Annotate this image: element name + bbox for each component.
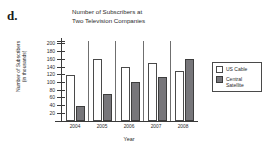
y-axis-tick-label-text: 100 [41, 80, 55, 85]
chart-title-line-2: Two Television Companies [72, 17, 202, 26]
bar-us-cable-2008 [175, 71, 184, 121]
filled-square-icon [216, 76, 223, 83]
y-axis-tick-label-text: 60 [41, 95, 55, 100]
y-axis-title: Number of Subscribers (in thousands) [15, 28, 28, 104]
y-axis-tick-label: 100 [41, 80, 55, 85]
bar-central-satellite-2005 [103, 94, 112, 121]
y-axis-tick-label: 80 [41, 88, 55, 93]
group-separator [143, 41, 144, 121]
open-square-icon [216, 66, 223, 73]
x-axis-tick-label: 2005 [91, 124, 113, 129]
y-axis-tick-label: 120 [41, 72, 55, 77]
bar-central-satellite-2006 [131, 82, 140, 121]
bar-us-cable-2005 [93, 59, 102, 121]
y-axis-tick-label: 160 [41, 57, 55, 62]
x-axis-title: Year [61, 136, 197, 142]
x-axis-tick-label: 2006 [118, 124, 140, 129]
y-axis-tick-label-text: 40 [41, 103, 55, 108]
bar-us-cable-2004 [66, 75, 75, 121]
y-axis-tick-label-text: 180 [41, 49, 55, 54]
y-axis-tick-label: 140 [41, 65, 55, 70]
group-separator [170, 41, 171, 121]
chart-legend: US Cable Central Satellite [212, 62, 262, 92]
bar-us-cable-2007 [148, 63, 157, 121]
problem-letter-label: d. [7, 8, 17, 24]
legend-item-us-cable: US Cable [216, 66, 258, 73]
x-axis-line [55, 121, 198, 122]
y-axis-tick-label-text: 140 [41, 65, 55, 70]
y-axis-tick-label: 20 [41, 111, 55, 116]
y-axis-tick-label-text: 160 [41, 57, 55, 62]
bar-central-satellite-2004 [76, 106, 85, 121]
bar-central-satellite-2007 [158, 77, 167, 121]
y-axis-tick-label-text: 120 [41, 72, 55, 77]
plot-area [61, 41, 197, 121]
legend-label-us-cable: US Cable [226, 66, 247, 72]
y-axis-tick-label: 40 [41, 103, 55, 108]
y-axis-tick-label: 60 [41, 95, 55, 100]
group-separator [115, 41, 116, 121]
legend-label-central-satellite-line-2: Satellite [226, 82, 244, 88]
y-axis-tick-label-text: 200 [41, 41, 55, 46]
legend-item-central-satellite: Central Satellite [216, 76, 258, 88]
bar-us-cable-2006 [121, 67, 130, 121]
x-axis-tick-label: 2007 [145, 124, 167, 129]
chart-title-line-1: Number of Subscribers at [72, 8, 202, 17]
y-axis-tick-label-text: 80 [41, 88, 55, 93]
y-axis-title-line-2: (in thousands) [21, 28, 27, 104]
x-axis-tick-label: 2008 [172, 124, 194, 129]
x-axis-tick-label: 2004 [64, 124, 86, 129]
chart-title: Number of Subscribers at Two Television … [72, 8, 202, 25]
bar-central-satellite-2008 [185, 59, 194, 121]
group-separator [88, 41, 89, 121]
y-axis-tick-label: 180 [41, 49, 55, 54]
y-axis-tick-label-text: 20 [41, 111, 55, 116]
legend-label-central-satellite: Central Satellite [226, 76, 244, 88]
y-axis-tick-label: 200 [41, 41, 55, 46]
